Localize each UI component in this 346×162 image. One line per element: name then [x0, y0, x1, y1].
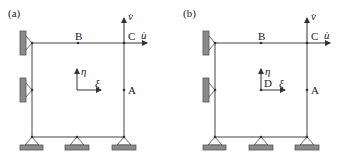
xi-label: ξ [279, 77, 284, 90]
point-a-marker [123, 89, 126, 92]
point-b-label: B [258, 30, 265, 42]
v-dot-label: v̇ [311, 10, 316, 22]
point-a-label: A [128, 84, 136, 96]
point-b-marker [260, 42, 263, 45]
panel-label: (a) [8, 7, 21, 20]
wall-support-top [203, 31, 215, 55]
wall-support-middle [203, 78, 215, 102]
ground-support-middle [65, 137, 89, 150]
wall-support-top [20, 31, 32, 55]
v-dot-label: v̇ [128, 10, 133, 22]
ground-support-left [20, 137, 43, 150]
u-dot-label: u̇ [141, 29, 147, 41]
u-dot-label: u̇ [324, 29, 330, 41]
eta-label: η [81, 65, 86, 77]
point-a-label: A [311, 84, 319, 96]
point-b-label: B [75, 30, 82, 42]
point-c-label: C [128, 30, 135, 42]
ground-support-right [295, 137, 319, 150]
point-d-label: D [264, 77, 272, 89]
panel-b: (b) [183, 7, 330, 150]
ground-support-left [203, 137, 226, 150]
diagram-canvas: (a) [0, 0, 346, 162]
point-b-marker [77, 42, 80, 45]
eta-label: η [265, 65, 270, 77]
panel-label: (b) [183, 7, 196, 20]
point-c-label: C [311, 30, 318, 42]
ground-support-middle [249, 137, 273, 150]
panel-a: (a) [8, 7, 147, 150]
point-a-marker [306, 89, 309, 92]
wall-support-middle [20, 78, 32, 102]
ground-support-right [112, 137, 136, 150]
xi-label: ξ [95, 77, 100, 90]
